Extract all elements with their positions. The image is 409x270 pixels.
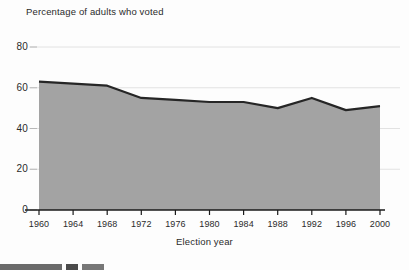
x-axis-tick-label: 1976 (160, 219, 190, 229)
footer-bar-2 (66, 264, 78, 270)
x-axis-title: Election year (0, 236, 409, 247)
x-axis-tick-label: 1964 (58, 219, 88, 229)
footer-bar-1 (0, 264, 62, 270)
plot-area: 020406080 196019641968197219761980198419… (0, 0, 409, 270)
x-axis-tick-label: 1988 (263, 219, 293, 229)
x-axis-tick-label: 1980 (195, 219, 225, 229)
x-axis-tick-label: 1996 (331, 219, 361, 229)
x-axis-tick-label: 1968 (92, 219, 122, 229)
y-axis-tick-label: 20 (6, 163, 28, 174)
area-fill (39, 82, 380, 210)
chart-page: Percentage of adults who voted 020406080… (0, 0, 409, 270)
x-axis-ticks (39, 210, 380, 215)
y-axis-tick-label: 60 (6, 82, 28, 93)
y-axis-tick-label: 0 (6, 204, 28, 215)
x-axis-tick-label: 1972 (126, 219, 156, 229)
x-axis-tick-label: 2000 (365, 219, 395, 229)
x-axis-tick-label: 1960 (24, 219, 54, 229)
y-axis-tick-label: 40 (6, 123, 28, 134)
x-axis-tick-label: 1992 (297, 219, 327, 229)
y-axis-tick-label: 80 (6, 41, 28, 52)
y-axis-ticks (30, 47, 37, 210)
footer-bar-3 (82, 264, 104, 270)
footer-strip (0, 264, 409, 270)
area-chart-svg (0, 0, 409, 270)
x-axis-tick-label: 1984 (229, 219, 259, 229)
